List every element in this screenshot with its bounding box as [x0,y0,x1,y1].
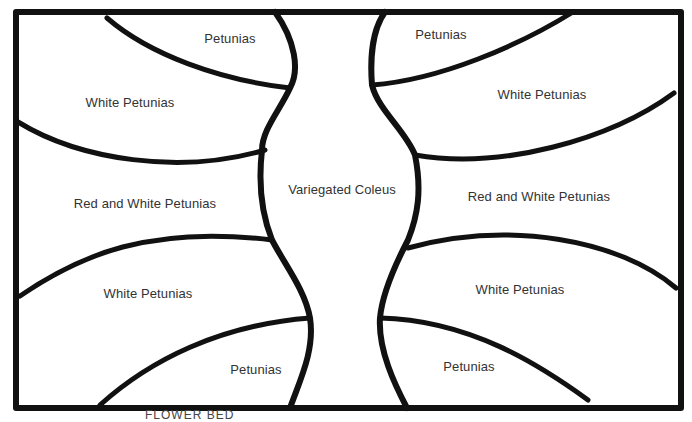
region-label-left-red-white-petunias: Red and White Petunias [74,196,216,211]
divider-right-2 [415,93,674,159]
region-label-right-petunias-bottom: Petunias [443,359,494,374]
diagram-caption: FLOWER BED [145,408,234,422]
region-label-left-white-petunias-top: White Petunias [86,95,175,110]
divider-left-2 [18,122,265,162]
region-label-left-petunias-top: Petunias [204,31,255,46]
coleus-left-edge [260,12,311,408]
divider-left-1 [107,18,290,88]
divider-right-3 [408,235,676,288]
divider-right-1 [372,12,573,85]
region-label-left-petunias-bottom: Petunias [230,362,281,377]
region-label-right-white-petunias-bottom: White Petunias [476,282,565,297]
region-label-right-red-white-petunias: Red and White Petunias [468,189,610,204]
region-label-right-petunias-top: Petunias [415,27,466,42]
coleus-right-edge [371,12,418,408]
region-label-right-white-petunias-top: White Petunias [498,87,587,102]
region-label-variegated-coleus: Variegated Coleus [288,182,396,197]
region-label-left-white-petunias-bottom: White Petunias [104,286,193,301]
